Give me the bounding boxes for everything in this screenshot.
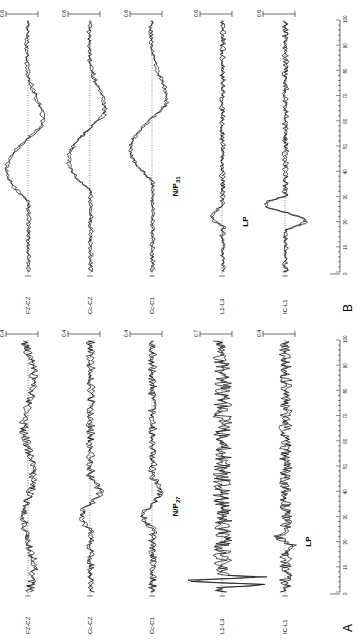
annotation-label: LP [241,216,250,227]
scale-label: 0.4 [61,330,67,337]
axis-tick-label: 100 [343,15,348,23]
trace-line [264,21,307,272]
scale-label: 0.6 [0,10,5,17]
trace-line [80,341,102,592]
panel-letter: A [341,624,355,632]
channel-label: IC-L1 [282,299,288,314]
axis-tick-label: 0 [343,272,348,275]
axis-tick-label: 60 [343,118,348,124]
axis-tick-label: 90 [343,363,348,369]
panel-b: FZ-CZ0.6Cc-CZ0.6Cc-C10.6L1-L30.6IC-L10.6… [0,0,320,359]
trace-line [5,21,45,272]
scale-label: 0.6 [123,10,129,17]
axis-tick-label: 40 [343,169,348,175]
annotation-label: N/P31 [171,176,181,197]
channel-label: L1-L3 [219,618,225,634]
trace-line [191,341,267,592]
panel-a-rotated: FZ-CZ0.4Cc-CZ0.4Cc-C10.4L1-L30.7IC-L10.4… [0,320,359,640]
scale-label: 0.6 [193,10,199,17]
channel-label: Cc-C1 [149,616,155,634]
axis-tick-label: 0 [343,592,348,595]
annotation-label: LP [304,536,313,547]
channel-label: Cc-CZ [87,616,93,634]
axis-tick-label: 20 [343,539,348,545]
scale-label: 0.4 [256,330,262,337]
axis-tick-label: 20 [343,219,348,225]
figure: FZ-CZ0.6Cc-CZ0.6Cc-C10.6L1-L30.6IC-L10.6… [0,0,359,640]
trace-line [5,21,44,272]
trace-line [211,21,225,272]
axis-tick-label: 60 [343,438,348,444]
scale-label: 0.7 [193,330,199,337]
axis-tick-label: 30 [343,514,348,520]
scale-label: 0.4 [0,330,5,337]
panel-a: FZ-CZ0.4Cc-CZ0.4Cc-C10.4L1-L30.7IC-L10.4… [0,320,320,640]
trace-line [141,341,162,592]
axis-tick-label: 10 [343,244,348,250]
trace-line [130,21,169,272]
axis-tick-label: 50 [343,463,348,469]
scale-label: 0.4 [123,330,129,337]
axis-tick-label: 70 [343,413,348,419]
trace-line [276,341,297,592]
axis-tick-label: 70 [343,93,348,99]
axis-tick-label: 100 [343,335,348,343]
axis-tick-label: 30 [343,194,348,200]
channel-label: FZ-CZ [25,616,31,634]
axis-tick-label: 10 [343,564,348,570]
channel-label: Cc-C1 [149,296,155,314]
channel-label: L1-L3 [219,298,225,314]
axis-tick-label: 90 [343,43,348,49]
panel-b-rotated: FZ-CZ0.6Cc-CZ0.6Cc-C10.6L1-L30.6IC-L10.6… [0,0,359,320]
axis-tick-label: 80 [343,388,348,394]
channel-label: FZ-CZ [25,296,31,314]
axis-tick-label: 50 [343,143,348,149]
panel-letter: B [341,304,355,312]
axis-tick-label: 80 [343,68,348,74]
trace-line [129,21,168,272]
annotation-label: N/P27 [171,496,181,517]
axis-tick-label: 40 [343,489,348,495]
panel-b-traces: FZ-CZ0.6Cc-CZ0.6Cc-C10.6L1-L30.6IC-L10.6… [0,0,359,320]
scale-label: 0.6 [61,10,67,17]
channel-label: IC-L1 [282,619,288,634]
trace-line [67,21,107,272]
panel-a-traces: FZ-CZ0.4Cc-CZ0.4Cc-C10.4L1-L30.7IC-L10.4… [0,320,359,640]
channel-label: Cc-CZ [87,296,93,314]
scale-label: 0.6 [256,10,262,17]
trace-line [80,341,104,592]
